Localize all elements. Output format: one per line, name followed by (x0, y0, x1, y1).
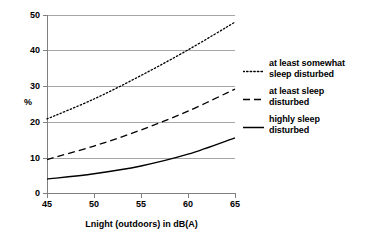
solid-line-sample (243, 118, 264, 127)
legend-item-highly-sleep-disturbed: highly sleep disturbed (243, 114, 365, 136)
legend-label-line2: sleep disturbed (269, 69, 365, 80)
series-at-least-somewhat-sleep-disturbed (47, 22, 235, 119)
legend-label-line2: disturbed (269, 125, 365, 136)
legend-label-line1: at least sleep (269, 86, 365, 97)
legend-label-line1: highly sleep (269, 114, 365, 125)
legend-label-line2: disturbed (269, 97, 365, 108)
series-at-least-sleep-disturbed (47, 89, 235, 159)
exposure-response-chart: 50 40 30 20 10 0 % 45 50 55 60 65 Lnight… (0, 0, 368, 240)
legend-label-line1: at least somewhat (269, 58, 365, 69)
legend-item-at-least-sleep-disturbed: at least sleep disturbed (243, 86, 365, 108)
series-highly-sleep-disturbed (47, 138, 235, 179)
legend: at least somewhat sleep disturbed at lea… (243, 58, 365, 142)
legend-item-at-least-somewhat-sleep-disturbed: at least somewhat sleep disturbed (243, 58, 365, 80)
dashed-line-sample (243, 90, 264, 99)
dotted-line-sample (243, 62, 264, 71)
